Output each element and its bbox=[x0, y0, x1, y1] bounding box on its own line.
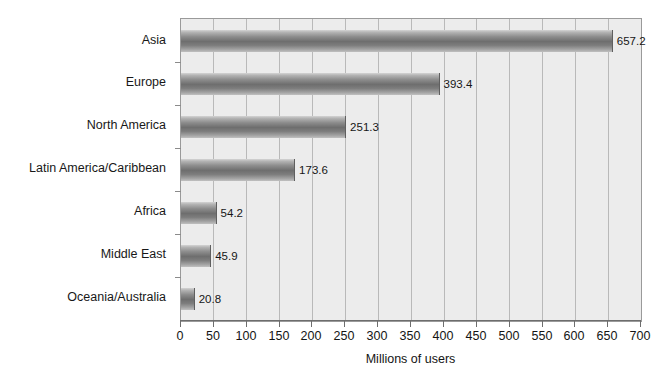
x-axis-tick bbox=[311, 321, 312, 327]
gridline-300 bbox=[378, 19, 379, 321]
bar-value-north-america: 251.3 bbox=[346, 121, 379, 133]
x-axis-tick bbox=[509, 321, 510, 327]
bar-middle-east[interactable] bbox=[181, 245, 211, 267]
x-axis-tick bbox=[213, 321, 214, 327]
y-axis-tick bbox=[175, 234, 181, 235]
category-label-africa: Africa bbox=[134, 205, 166, 218]
bar-value-latin-america-caribbean: 173.6 bbox=[295, 164, 328, 176]
bar-value-oceania-australia: 20.8 bbox=[195, 293, 221, 305]
x-axis-title: Millions of users bbox=[180, 352, 641, 366]
x-axis-tick bbox=[377, 321, 378, 327]
x-axis-tick bbox=[180, 321, 181, 327]
y-axis-tick bbox=[175, 148, 181, 149]
bar-europe[interactable] bbox=[181, 73, 440, 95]
gridline-450 bbox=[476, 19, 477, 321]
category-label-europe: Europe bbox=[126, 76, 166, 89]
bar-value-africa: 54.2 bbox=[217, 207, 243, 219]
gridline-650 bbox=[608, 19, 609, 321]
x-axis-tick bbox=[443, 321, 444, 327]
x-axis-tick-label-100: 100 bbox=[236, 329, 257, 343]
y-axis-tick bbox=[175, 191, 181, 192]
x-axis-tick bbox=[607, 321, 608, 327]
category-label-asia: Asia bbox=[142, 34, 166, 47]
category-label-middle-east: Middle East bbox=[101, 248, 166, 261]
x-axis-tick-label-400: 400 bbox=[433, 329, 454, 343]
x-axis-tick bbox=[476, 321, 477, 327]
x-axis-tick bbox=[279, 321, 280, 327]
category-axis-labels: Asia Europe North America Latin America/… bbox=[0, 0, 174, 386]
x-axis-tick-label-700: 700 bbox=[630, 329, 651, 343]
bar-asia[interactable] bbox=[181, 30, 613, 52]
gridline-350 bbox=[411, 19, 412, 321]
bar-africa[interactable] bbox=[181, 202, 217, 224]
gridline-250 bbox=[345, 19, 346, 321]
y-axis-tick bbox=[175, 105, 181, 106]
x-axis-tick-label-0: 0 bbox=[177, 329, 184, 343]
gridline-550 bbox=[542, 19, 543, 321]
bar-value-middle-east: 45.9 bbox=[211, 250, 237, 262]
x-axis-tick-label-250: 250 bbox=[334, 329, 355, 343]
gridline-600 bbox=[575, 19, 576, 321]
y-axis-tick bbox=[175, 62, 181, 63]
y-axis-tick bbox=[175, 277, 181, 278]
bar-latin-america-caribbean[interactable] bbox=[181, 159, 295, 181]
x-axis-tick-label-550: 550 bbox=[532, 329, 553, 343]
x-axis-tick-label-350: 350 bbox=[400, 329, 421, 343]
x-axis-tick-label-300: 300 bbox=[367, 329, 388, 343]
x-axis-tick bbox=[574, 321, 575, 327]
bar-chart: Asia Europe North America Latin America/… bbox=[0, 0, 657, 386]
plot-area: 657.2 393.4 251.3 173.6 54.2 45.9 20.8 bbox=[180, 18, 642, 322]
bar-value-europe: 393.4 bbox=[440, 78, 473, 90]
x-axis-tick bbox=[410, 321, 411, 327]
x-axis-tick bbox=[344, 321, 345, 327]
gridline-500 bbox=[509, 19, 510, 321]
x-axis-tick-label-150: 150 bbox=[269, 329, 290, 343]
x-axis-tick bbox=[640, 321, 641, 327]
x-axis-tick bbox=[246, 321, 247, 327]
category-label-latin-america-caribbean: Latin America/Caribbean bbox=[29, 162, 166, 175]
x-axis-tick-label-200: 200 bbox=[301, 329, 322, 343]
category-label-oceania-australia: Oceania/Australia bbox=[67, 291, 166, 304]
x-axis-tick-label-50: 50 bbox=[206, 329, 220, 343]
x-axis-tick bbox=[542, 321, 543, 327]
x-axis-tick-label-450: 450 bbox=[466, 329, 487, 343]
bar-north-america[interactable] bbox=[181, 116, 346, 138]
bar-value-asia: 657.2 bbox=[613, 35, 646, 47]
x-axis-tick-label-650: 650 bbox=[597, 329, 618, 343]
bar-oceania-australia[interactable] bbox=[181, 288, 195, 310]
x-axis-tick-label-500: 500 bbox=[499, 329, 520, 343]
category-label-north-america: North America bbox=[87, 119, 166, 132]
gridline-400 bbox=[444, 19, 445, 321]
x-axis-tick-label-600: 600 bbox=[564, 329, 585, 343]
